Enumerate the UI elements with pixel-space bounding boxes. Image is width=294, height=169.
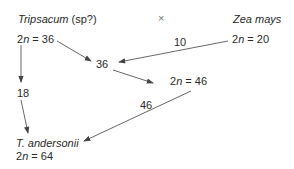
arrow-46-to-andersonii: [84, 91, 191, 141]
arrow-zea-to-36: [119, 41, 228, 62]
arrow-36-to-46: [113, 70, 153, 83]
arrow-layer: [0, 0, 294, 169]
arrow-tripsacum-to-36: [57, 41, 91, 61]
arrow-18-to-andersonii: [21, 100, 28, 133]
